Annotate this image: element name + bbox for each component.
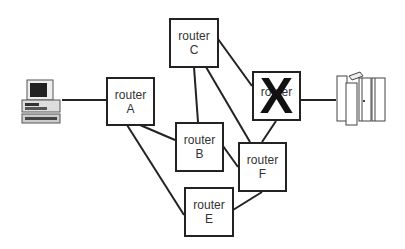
- router-label: router: [184, 133, 215, 147]
- router-label: router: [193, 198, 224, 212]
- failed-x-icon: X: [254, 73, 299, 119]
- router-failed: router X: [252, 71, 301, 121]
- router-a: router A: [106, 77, 155, 126]
- router-label: router: [247, 153, 278, 167]
- desktop-computer-icon: [18, 78, 64, 126]
- link-f-e: [233, 192, 262, 210]
- link-b-f: [223, 146, 238, 167]
- router-e: router E: [184, 187, 234, 237]
- router-label: router: [115, 88, 146, 102]
- router-label: router: [178, 29, 209, 43]
- link-a-b: [140, 125, 175, 140]
- router-letter: F: [259, 167, 266, 181]
- router-letter: E: [205, 212, 213, 226]
- link-d-f: [262, 121, 276, 142]
- router-letter: C: [190, 43, 199, 57]
- link-c-b: [194, 67, 198, 122]
- server-rack-icon: [335, 70, 391, 126]
- link-c-d: [218, 39, 252, 86]
- router-letter: A: [126, 102, 134, 116]
- router-c: router C: [169, 18, 219, 68]
- router-b: router B: [175, 122, 224, 172]
- router-letter: B: [195, 147, 203, 161]
- router-f: router F: [238, 142, 287, 192]
